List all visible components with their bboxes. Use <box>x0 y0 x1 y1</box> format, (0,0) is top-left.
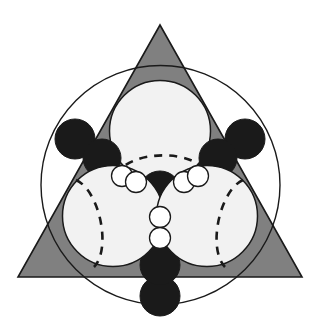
small-sphere-center-lower <box>150 228 171 249</box>
small-sphere-center-upper <box>150 207 171 228</box>
small-sphere-left-inner <box>126 172 147 193</box>
small-sphere-right-outer <box>188 166 209 187</box>
sphere-packing-diagram <box>0 0 319 325</box>
figure-container <box>0 0 319 325</box>
